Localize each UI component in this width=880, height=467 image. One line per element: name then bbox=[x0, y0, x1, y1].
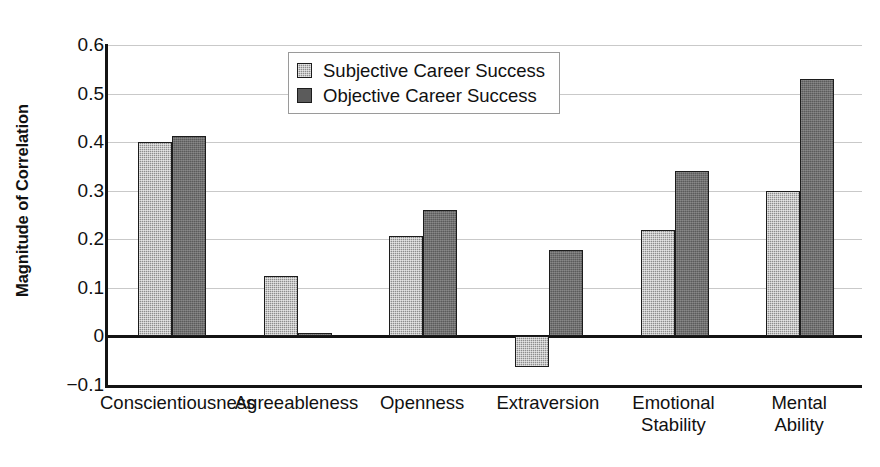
bar bbox=[515, 336, 549, 366]
bar bbox=[298, 333, 332, 337]
legend-label-objective: Objective Career Success bbox=[323, 85, 537, 107]
legend: Subjective Career Success Objective Care… bbox=[288, 52, 560, 114]
gridline bbox=[108, 191, 862, 192]
legend-swatch-icon-objective bbox=[297, 88, 312, 103]
bar bbox=[389, 236, 423, 337]
bar bbox=[138, 142, 172, 336]
y-axis-title-text: Magnitude of Correlation bbox=[13, 104, 32, 297]
x-axis-label: EmotionalStability bbox=[603, 392, 745, 436]
legend-entry-subjective: Subjective Career Success bbox=[297, 58, 545, 83]
y-tick-label: 0.5 bbox=[42, 84, 104, 103]
gridline bbox=[108, 142, 862, 143]
y-tick-label: 0.2 bbox=[42, 229, 104, 248]
x-axis-line bbox=[105, 385, 862, 388]
y-tick-label: 0.1 bbox=[42, 278, 104, 297]
bar bbox=[800, 79, 834, 336]
bar bbox=[549, 250, 583, 336]
y-axis-tick-labels: 0.60.50.40.30.20.10−0.1 bbox=[40, 0, 104, 467]
y-tick-label: 0.6 bbox=[42, 35, 104, 54]
gridline bbox=[108, 288, 862, 289]
zero-baseline bbox=[108, 335, 862, 338]
x-axis-label: Openness bbox=[351, 392, 493, 414]
bar bbox=[172, 136, 206, 336]
y-tick-label: 0.3 bbox=[42, 181, 104, 200]
bar-chart-figure: Magnitude of Correlation 0.60.50.40.30.2… bbox=[0, 0, 880, 467]
gridline bbox=[108, 239, 862, 240]
legend-entry-objective: Objective Career Success bbox=[297, 83, 545, 108]
y-tick-label: 0.4 bbox=[42, 132, 104, 151]
bar bbox=[264, 276, 298, 337]
x-axis-label: Conscientiousness bbox=[100, 392, 242, 414]
bar bbox=[641, 230, 675, 337]
x-axis-label: MentalAbility bbox=[728, 392, 870, 436]
x-axis-label: Agreeableness bbox=[226, 392, 368, 414]
x-axis-label: Extraversion bbox=[477, 392, 619, 414]
y-tick-label: −0.1 bbox=[42, 375, 104, 394]
bar bbox=[423, 210, 457, 336]
bar bbox=[766, 191, 800, 337]
x-axis-category-labels: ConscientiousnessAgreeablenessOpennessEx… bbox=[108, 392, 862, 462]
legend-label-subjective: Subjective Career Success bbox=[323, 60, 545, 82]
y-tick-label: 0 bbox=[42, 326, 104, 345]
bar bbox=[675, 171, 709, 336]
gridline bbox=[108, 45, 862, 46]
legend-swatch-icon-subjective bbox=[297, 63, 312, 78]
y-axis-title: Magnitude of Correlation bbox=[4, 0, 40, 400]
